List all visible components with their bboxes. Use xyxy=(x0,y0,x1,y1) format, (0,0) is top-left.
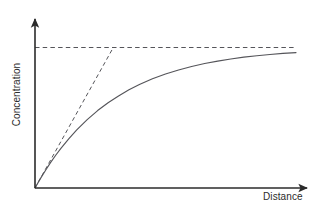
y-axis-label-text: Concentration xyxy=(12,62,23,126)
chart-container: Concentration Distance xyxy=(0,0,325,213)
x-axis-label: Distance xyxy=(263,191,303,202)
y-axis-label: Concentration xyxy=(0,0,34,188)
chart-plot-area xyxy=(0,0,325,213)
initial-tangent-dashed-line xyxy=(35,48,113,189)
concentration-curve xyxy=(35,53,296,188)
